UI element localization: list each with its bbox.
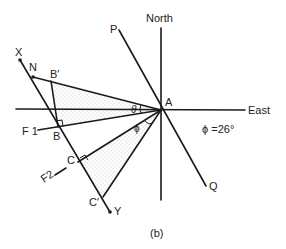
point-X — [18, 58, 22, 62]
line-F2 — [55, 168, 66, 175]
label-F2: F2 — [38, 167, 55, 184]
label-X: X — [15, 46, 23, 58]
label-N: N — [29, 61, 37, 73]
label-C: C — [67, 154, 75, 166]
label-B: B — [53, 130, 60, 142]
label-Y: Y — [114, 205, 122, 217]
label-C-prime: C′ — [89, 196, 99, 208]
label-phi: ϕ — [134, 123, 140, 134]
label-theta: θ — [131, 104, 137, 115]
label-F1: F 1 — [22, 125, 38, 137]
label-Q: Q — [209, 180, 218, 192]
figure-caption: (b) — [150, 227, 163, 239]
label-A: A — [165, 96, 173, 108]
point-Y — [108, 210, 112, 214]
label-north: North — [146, 12, 173, 24]
geometry-diagram: North East P Q A X Y N B′ B C C′ F 1 F2 … — [0, 0, 286, 249]
label-B-prime: B′ — [50, 68, 59, 80]
label-P: P — [110, 23, 117, 35]
point-N — [31, 75, 35, 79]
label-east: East — [248, 104, 270, 116]
angle-annotation: ϕ =26° — [202, 123, 234, 135]
